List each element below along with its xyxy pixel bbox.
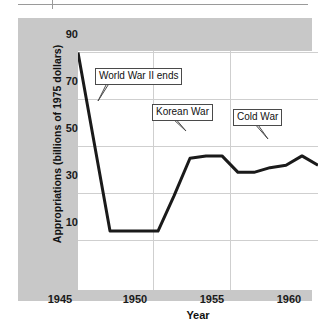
chart-figure-panel: Appropriations (billions of 1975 dollars… <box>18 18 312 301</box>
annotation-cold: Cold War <box>233 109 282 126</box>
y-tick-50: 50 <box>44 123 78 134</box>
annotation-korea: Korean War <box>152 104 213 121</box>
vertical-gridlines <box>154 51 231 290</box>
y-tick-70: 70 <box>44 76 78 87</box>
x-tick-1950: 1950 <box>112 294 158 305</box>
y-tick-10: 10 <box>44 217 78 228</box>
page-divider-tick <box>52 0 53 9</box>
y-tick-30: 30 <box>44 170 78 181</box>
x-tick-1945: 1945 <box>37 294 83 305</box>
y-tick-90: 90 <box>44 29 78 40</box>
y-axis-tick-labels: 90 70 50 30 10 <box>18 18 78 301</box>
x-tick-1960: 1960 <box>266 294 312 305</box>
chart-svg <box>78 51 318 290</box>
x-tick-1955: 1955 <box>189 294 235 305</box>
page-divider-rule <box>18 4 308 5</box>
x-axis-title: Year <box>78 309 318 321</box>
annotation-ww2: World War II ends <box>95 68 182 85</box>
plot-area: World War II ends Korean War Cold War <box>78 51 318 290</box>
